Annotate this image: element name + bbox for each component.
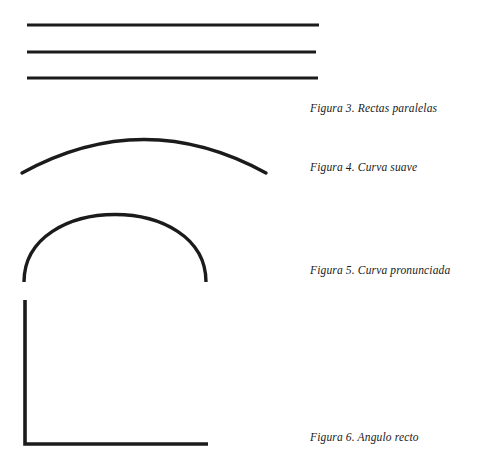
steep-arch-path (24, 215, 206, 283)
figure-3-caption: Figura 3. Rectas paralelas (310, 103, 437, 115)
figure-5-graphic (0, 196, 230, 291)
figure-4-caption: Figura 4. Curva suave (310, 162, 417, 174)
figure-3-graphic (0, 0, 340, 95)
gentle-arc-path (22, 140, 266, 174)
figure-6-graphic (0, 294, 230, 454)
gentle-arc-icon (0, 112, 290, 182)
figure-sheet: Figura 3. Rectas paralelas Figura 4. Cur… (0, 0, 484, 471)
parallel-lines-icon (0, 0, 340, 95)
right-angle-icon (0, 294, 230, 454)
figure-5-caption: Figura 5. Curva pronunciada (310, 265, 450, 277)
figure-6-caption: Figura 6. Angulo recto (310, 432, 419, 444)
steep-arch-icon (0, 196, 230, 291)
right-angle-path (25, 300, 208, 444)
figure-4-graphic (0, 112, 290, 182)
